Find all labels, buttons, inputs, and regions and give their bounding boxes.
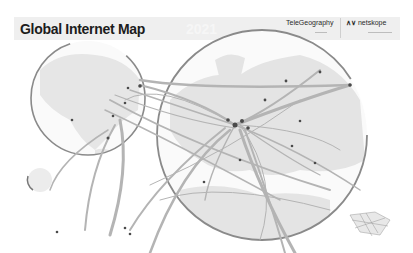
network-map — [0, 0, 413, 253]
europe-inset — [157, 30, 367, 240]
asia-cluster — [350, 212, 390, 236]
caribbean-inset — [27, 168, 52, 192]
americas-inset — [31, 41, 145, 175]
global-internet-map-poster: Global Internet Map 2021 TeleGeography ∧… — [0, 0, 413, 253]
